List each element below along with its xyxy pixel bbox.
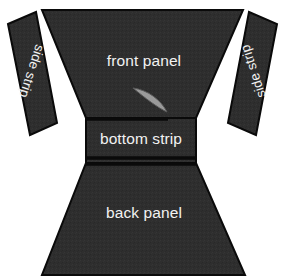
label-bottom-strip: bottom strip — [100, 130, 182, 147]
label-front-panel: front panel — [107, 52, 181, 69]
label-back-panel: back panel — [106, 204, 182, 221]
pattern-canvas: front panel side strip side strip bottom… — [0, 0, 286, 279]
pattern-diagram: front panel side strip side strip bottom… — [0, 0, 286, 279]
